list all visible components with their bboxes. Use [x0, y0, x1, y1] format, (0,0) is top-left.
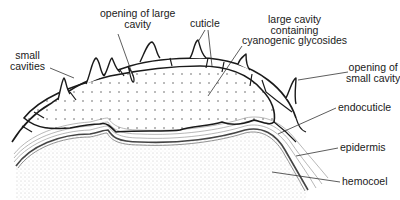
label-epidermis: epidermis: [340, 142, 386, 153]
large-cavity: [24, 66, 275, 132]
label-opening-of-large-cavity: opening of large cavity: [100, 8, 175, 29]
cuticle-cross-section-diagram: opening of large cavity cuticle large ca…: [0, 0, 400, 200]
label-endocuticle: endocuticle: [338, 102, 391, 113]
label-opening-of-small-cavity: opening of small cavity: [346, 62, 400, 83]
label-small-cavities: small cavities: [10, 50, 45, 71]
label-large-cavity: large cavity containing cyanogenic glyco…: [242, 14, 347, 46]
hemocoel-region: [16, 129, 308, 200]
label-cuticle: cuticle: [190, 18, 220, 29]
label-hemocoel: hemocoel: [342, 176, 388, 187]
